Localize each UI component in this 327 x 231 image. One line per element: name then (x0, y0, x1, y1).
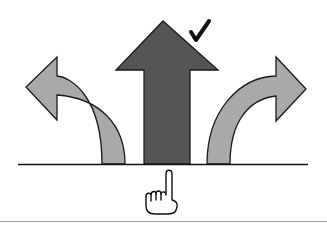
right-curve-arrow (207, 57, 306, 164)
pointing-hand-icon (146, 170, 177, 214)
straight-up-arrow (116, 21, 218, 164)
left-curve-arrow (26, 57, 125, 164)
diagram-canvas (0, 0, 327, 231)
checkmark-icon (191, 21, 209, 40)
